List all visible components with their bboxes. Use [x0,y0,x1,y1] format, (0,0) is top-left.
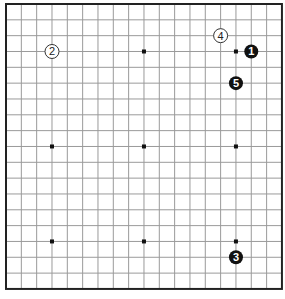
star-point [142,144,146,148]
star-point [142,239,146,243]
move-number: 3 [233,251,239,263]
star-point [142,49,146,53]
star-point [234,144,238,148]
move-number: 2 [49,45,55,57]
black-stone[interactable]: 3 [229,250,243,264]
star-point [50,144,54,148]
white-stone[interactable]: 2 [45,44,59,58]
star-point [234,49,238,53]
star-point [50,239,54,243]
move-number: 1 [248,45,254,57]
go-board[interactable]: 12345 [0,0,285,299]
move-number: 5 [233,77,239,89]
white-stone[interactable]: 4 [214,29,228,43]
move-number: 4 [218,30,224,42]
black-stone[interactable]: 5 [229,76,243,90]
star-point [234,239,238,243]
black-stone[interactable]: 1 [244,44,258,58]
